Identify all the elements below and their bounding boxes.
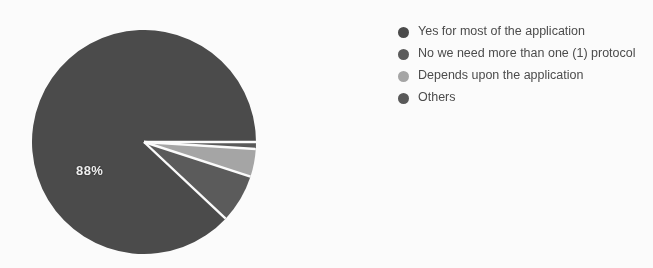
legend-item-others[interactable]: Others [398,90,648,105]
pie-chart-plot: 88% [32,30,256,254]
pie-chart-figure: 88% Yes for most of the application No w… [0,0,653,268]
legend-item-no-we-need-more-than-one-protocol[interactable]: No we need more than one (1) protocol [398,46,648,61]
legend-item-label: Others [418,90,456,105]
legend-swatch-icon [398,27,409,38]
pie-svg [32,30,256,254]
legend-swatch-icon [398,71,409,82]
chart-legend: Yes for most of the application No we ne… [398,24,648,112]
legend-item-depends-upon-the-application[interactable]: Depends upon the application [398,68,648,83]
legend-item-yes-for-most-of-the-application[interactable]: Yes for most of the application [398,24,648,39]
legend-item-label: Depends upon the application [418,68,583,83]
pie-slice-percentage-label: 88% [76,163,103,178]
legend-swatch-icon [398,49,409,60]
legend-swatch-icon [398,93,409,104]
legend-item-label: No we need more than one (1) protocol [418,46,636,61]
legend-item-label: Yes for most of the application [418,24,585,39]
